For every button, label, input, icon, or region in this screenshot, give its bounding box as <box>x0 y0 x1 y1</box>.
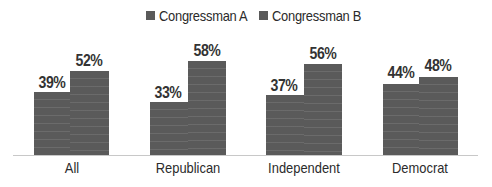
category-label-all: All <box>46 159 98 176</box>
bar-independent-congressman-b <box>304 64 342 155</box>
value-label-independent-b: 56% <box>305 45 340 63</box>
value-label-republican-b: 58% <box>189 42 224 60</box>
bar-all-congressman-b <box>70 71 109 155</box>
bar-all-congressman-a <box>34 92 70 155</box>
category-label-republican: Republican <box>154 159 223 176</box>
bar-republican-congressman-b <box>188 61 226 155</box>
bar-independent-congressman-a <box>266 95 304 155</box>
bar-democrat-congressman-b <box>419 77 458 155</box>
category-label-independent: Independent <box>265 159 342 176</box>
value-label-democrat-a: 44% <box>383 64 418 82</box>
value-label-all-b: 52% <box>71 52 106 70</box>
value-label-independent-a: 37% <box>266 77 301 95</box>
value-label-all-a: 39% <box>34 74 69 92</box>
bar-republican-congressman-a <box>150 102 188 155</box>
plot-area: 39% 52% All 33% 58% Republican 37% 56% I… <box>0 0 492 187</box>
x-axis-baseline <box>13 155 478 156</box>
bar-democrat-congressman-a <box>383 84 419 155</box>
value-label-democrat-b: 48% <box>420 57 455 75</box>
category-label-democrat: Democrat <box>386 159 455 176</box>
value-label-republican-a: 33% <box>150 84 185 102</box>
